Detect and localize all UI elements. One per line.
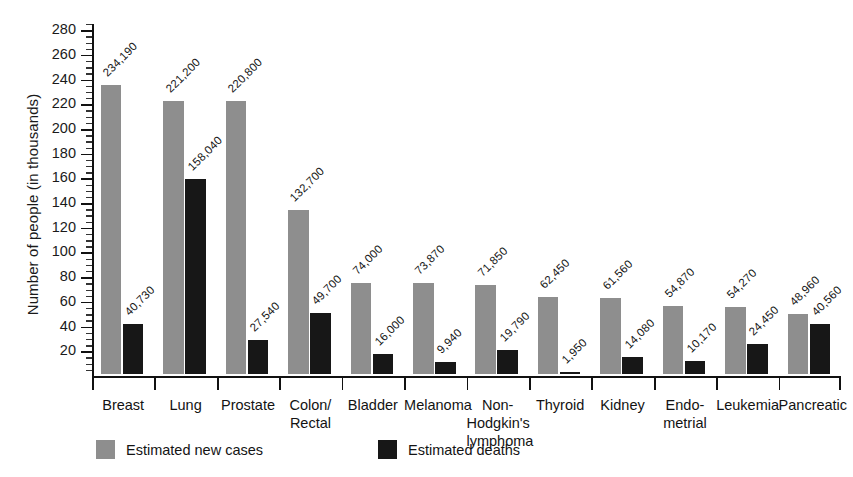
x-axis-tick [467, 378, 469, 390]
y-tick-label: 140 [30, 195, 76, 210]
bar-cases [600, 298, 621, 374]
y-tick-minor [86, 314, 92, 315]
y-tick-minor [86, 370, 92, 371]
x-axis-tick [591, 378, 593, 390]
bar-deaths [185, 179, 206, 374]
bar-cases [725, 307, 746, 374]
y-tick-major [81, 80, 92, 82]
y-tick-minor [86, 234, 92, 235]
bar-value-label: 54,870 [662, 266, 696, 300]
bar-group: 221,200158,040 [163, 22, 206, 374]
y-tick-major [81, 55, 92, 57]
y-tick-minor [86, 61, 92, 62]
x-axis-tick [716, 378, 718, 390]
y-tick-label: 200 [30, 121, 76, 136]
bar-deaths [560, 372, 581, 374]
y-tick-minor [86, 296, 92, 297]
bar-group: 73,8709,940 [413, 22, 456, 374]
y-tick-minor [86, 36, 92, 37]
x-axis-category-label: Lung [154, 396, 216, 414]
y-tick-label: 180 [30, 146, 76, 161]
y-tick-minor [86, 320, 92, 321]
bar-value-label: 10,170 [684, 321, 718, 355]
x-axis-tick [342, 378, 344, 390]
y-tick-minor [86, 117, 92, 118]
y-tick-minor [86, 67, 92, 68]
bar-value-label: 1,950 [560, 336, 590, 366]
x-axis-category-label: Breast [92, 396, 154, 414]
y-tick-minor [86, 259, 92, 260]
x-axis-category-line: Lung [154, 396, 216, 414]
legend-item-estimated-deaths: Estimated deaths [378, 440, 520, 459]
y-tick-label: 220 [30, 96, 76, 111]
y-tick-major [81, 203, 92, 205]
x-axis-category-label: Leukemia [716, 396, 778, 414]
y-tick-minor [86, 209, 92, 210]
y-tick-minor [86, 49, 92, 50]
y-tick-minor [86, 141, 92, 142]
bar-value-label: 27,540 [248, 300, 282, 334]
y-tick-minor [86, 172, 92, 173]
y-tick-minor [86, 364, 92, 365]
y-tick-minor [86, 166, 92, 167]
y-tick-minor [86, 290, 92, 291]
x-axis-category-line: Bladder [342, 396, 404, 414]
x-axis-category-line: Prostate [217, 396, 279, 414]
bar-value-label: 221,200 [163, 56, 202, 95]
bar-value-label: 19,790 [497, 309, 531, 343]
y-tick-minor [86, 215, 92, 216]
bar-value-label: 74,000 [350, 242, 384, 276]
y-tick-minor [86, 43, 92, 44]
bar-value-label: 71,850 [475, 245, 509, 279]
y-tick-label: 260 [30, 47, 76, 62]
bar-group: 132,70049,700 [288, 22, 331, 374]
legend-item-estimated-new-cases: Estimated new cases [96, 440, 263, 459]
y-tick-minor [86, 339, 92, 340]
bar-group: 48,96040,560 [788, 22, 831, 374]
y-tick-minor [86, 240, 92, 241]
x-axis-category-line: metrial [654, 414, 716, 432]
y-tick-label: 80 [30, 269, 76, 284]
bar-deaths [248, 340, 269, 374]
y-axis-line [92, 24, 94, 378]
y-tick-label: 120 [30, 220, 76, 235]
bar-value-label: 14,080 [622, 316, 656, 350]
x-axis-category-line: Leukemia [716, 396, 778, 414]
x-axis-tick [779, 378, 781, 390]
y-tick-minor [86, 197, 92, 198]
bar-deaths [622, 357, 643, 374]
x-axis-category-label: Endo-metrial [654, 396, 716, 432]
x-axis-tick [654, 378, 656, 390]
x-axis-tick [217, 378, 219, 390]
x-axis-category-line: Kidney [591, 396, 653, 414]
y-tick-major [81, 104, 92, 106]
x-axis-tick [404, 378, 406, 390]
bar-value-label: 62,450 [538, 256, 572, 290]
x-axis-category-line: Breast [92, 396, 154, 414]
x-axis-category-label: Prostate [217, 396, 279, 414]
y-tick-label: 280 [30, 22, 76, 37]
bar-deaths [747, 344, 768, 374]
bar-cases [163, 101, 184, 374]
bar-group: 54,27024,450 [725, 22, 768, 374]
y-tick-minor [86, 92, 92, 93]
bar-deaths [310, 313, 331, 374]
y-tick-minor [86, 246, 92, 247]
y-tick-minor [86, 222, 92, 223]
bar-value-label: 220,800 [226, 56, 265, 95]
bar-value-label: 40,730 [123, 283, 157, 317]
bar-value-label: 61,560 [600, 258, 634, 292]
y-tick-label: 240 [30, 72, 76, 87]
bar-group: 62,4501,950 [538, 22, 581, 374]
y-tick-minor [86, 135, 92, 136]
x-axis-category-label: Pancreatic [779, 396, 841, 414]
y-tick-minor [86, 345, 92, 346]
y-tick-minor [86, 24, 92, 25]
bar-value-label: 73,870 [413, 242, 447, 276]
bar-group: 74,00016,000 [351, 22, 394, 374]
bar-cases [663, 306, 684, 374]
y-tick-minor [86, 185, 92, 186]
bar-value-label: 54,270 [725, 267, 759, 301]
bar-deaths [497, 350, 518, 374]
y-tick-minor [86, 308, 92, 309]
